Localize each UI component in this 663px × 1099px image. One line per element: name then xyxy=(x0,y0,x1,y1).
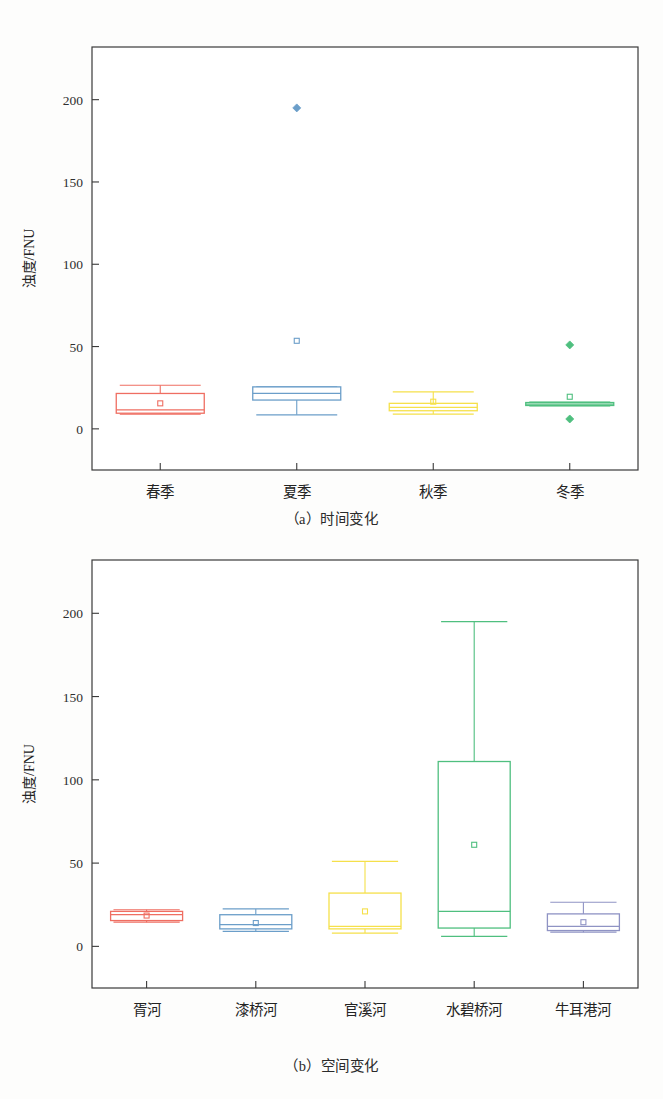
x-tick-label-胥河: 胥河 xyxy=(133,1002,161,1018)
box-rect xyxy=(547,914,619,931)
y-tick-label: 200 xyxy=(63,93,84,108)
x-tick-label-秋季: 秋季 xyxy=(419,484,447,500)
y-tick-label: 200 xyxy=(63,606,84,621)
x-tick-label-春季: 春季 xyxy=(146,484,174,500)
x-tick-label-官溪河: 官溪河 xyxy=(344,1002,386,1018)
y-axis-label: 浊度/FNU xyxy=(22,744,37,804)
x-tick-label-漆桥河: 漆桥河 xyxy=(235,1002,277,1018)
boxplot-panel-a: 050100150200浊度/FNU春季夏季秋季冬季 xyxy=(0,0,663,548)
y-tick-label: 50 xyxy=(70,856,84,871)
y-axis-label: 浊度/FNU xyxy=(22,229,37,289)
chart-panel-b: 050100150200浊度/FNU胥河漆桥河官溪河水碧桥河牛耳港河 xyxy=(0,548,663,1099)
chart-panel-a: 050100150200浊度/FNU春季夏季秋季冬季 xyxy=(0,0,663,548)
y-tick-label: 0 xyxy=(76,422,83,437)
box-rect xyxy=(438,762,510,929)
y-tick-label: 100 xyxy=(63,773,84,788)
panel-a-caption: （a）时间变化 xyxy=(0,507,663,528)
y-tick-label: 50 xyxy=(70,340,84,355)
figure-page: 050100150200浊度/FNU春季夏季秋季冬季 （a）时间变化 05010… xyxy=(0,0,663,1099)
y-tick-label: 0 xyxy=(76,939,83,954)
x-tick-label-牛耳港河: 牛耳港河 xyxy=(555,1002,611,1018)
panel-b-caption: （b）空间变化 xyxy=(0,1054,663,1075)
y-tick-label: 150 xyxy=(63,175,84,190)
boxplot-panel-b: 050100150200浊度/FNU胥河漆桥河官溪河水碧桥河牛耳港河 xyxy=(0,548,663,1099)
box-rect xyxy=(220,915,292,929)
x-tick-label-水碧桥河: 水碧桥河 xyxy=(446,1002,502,1018)
x-tick-label-冬季: 冬季 xyxy=(556,484,584,500)
box-rect xyxy=(329,893,401,929)
y-tick-label: 100 xyxy=(63,257,84,272)
x-tick-label-夏季: 夏季 xyxy=(283,484,311,500)
y-tick-label: 150 xyxy=(63,690,84,705)
